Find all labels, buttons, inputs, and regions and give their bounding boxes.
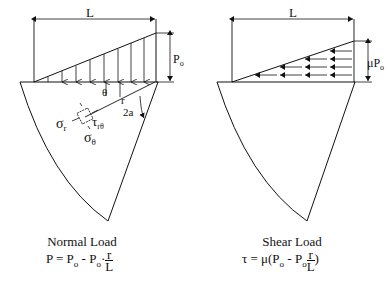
right-label-muPo: μPo bbox=[367, 56, 384, 72]
right-label-L: L bbox=[289, 5, 297, 20]
right-formula: τ = μ(Po - PorL) bbox=[242, 249, 319, 272]
left-load-arrows bbox=[48, 38, 144, 82]
right-shear-load-figure bbox=[217, 19, 372, 221]
right-load-triangle bbox=[232, 41, 354, 82]
two-a-label: 2a bbox=[123, 106, 134, 118]
right-caption: Shear Load bbox=[256, 235, 328, 249]
left-formula: P = Po - Po·rL bbox=[46, 249, 113, 272]
left-labels: L Po θ r 2a σr τrθ σθ bbox=[56, 5, 184, 147]
sigma-theta-label: σθ bbox=[84, 130, 96, 147]
angle-arc bbox=[140, 96, 144, 118]
sigma-r-label: σr bbox=[56, 116, 67, 133]
right-labels: L μPo bbox=[289, 5, 384, 72]
left-label-Po: Po bbox=[173, 52, 184, 68]
radius-label: r bbox=[121, 94, 125, 106]
tau-r-theta-label: τrθ bbox=[92, 114, 104, 131]
left-fraction: rL bbox=[105, 249, 113, 272]
theta-label: θ bbox=[102, 86, 107, 98]
left-load-triangle bbox=[34, 33, 156, 82]
right-fraction: rL bbox=[307, 249, 315, 272]
right-wedge-outline bbox=[217, 82, 355, 221]
left-wedge-outline bbox=[20, 82, 158, 221]
left-label-L: L bbox=[86, 5, 94, 20]
right-shear-arrows bbox=[255, 51, 352, 75]
right-caption-title: Shear Load bbox=[256, 235, 328, 249]
